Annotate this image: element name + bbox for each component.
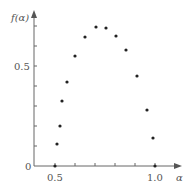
y-tick-label-0.5: 0.5 [14, 61, 30, 72]
y-axis-label: f(α) [10, 12, 29, 23]
data-point [65, 80, 68, 83]
data-point [53, 164, 56, 167]
data-point [94, 25, 97, 28]
scatter-chart: f(α) 0.5 0 0.5 1.0 α [0, 0, 192, 189]
data-point [55, 142, 58, 145]
data-point [60, 99, 63, 102]
origin-label: 0 [25, 161, 31, 172]
x-tick-label-1.0: 1.0 [147, 172, 163, 183]
axes [31, 10, 182, 169]
data-point [153, 164, 156, 167]
data-points [53, 25, 156, 167]
data-point [83, 35, 86, 38]
data-point [124, 48, 127, 51]
axis-ticks [34, 26, 155, 166]
y-axis-arrow-icon [31, 10, 37, 18]
data-point [151, 136, 154, 139]
data-point [73, 54, 76, 57]
data-point [145, 108, 148, 111]
data-point [135, 74, 138, 77]
data-point [114, 34, 117, 37]
x-axis-label: α [176, 172, 183, 183]
x-tick-label-0.5: 0.5 [47, 172, 63, 183]
data-point [58, 124, 61, 127]
data-point [104, 26, 107, 29]
x-axis-arrow-icon [174, 163, 182, 169]
